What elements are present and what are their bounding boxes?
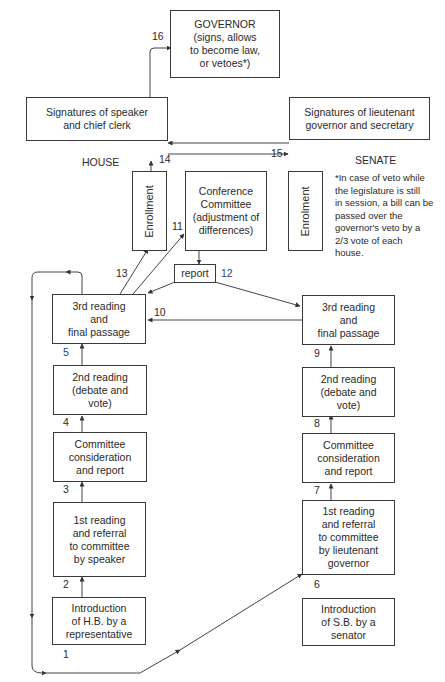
arrow-loop-top bbox=[66, 272, 82, 294]
arrow-16 bbox=[150, 48, 171, 97]
step-1: 1 bbox=[63, 648, 69, 660]
step-5: 5 bbox=[63, 346, 69, 358]
house-label: HOUSE bbox=[82, 156, 119, 168]
governor-box: GOVERNOR (signs, allows to become law, o… bbox=[170, 10, 280, 78]
step-15: 15 bbox=[271, 147, 283, 159]
senate-introduction-box: Introduction of S.B. by a senator bbox=[302, 598, 395, 646]
house-committee-box: Committee consideration and report bbox=[53, 432, 147, 482]
house-signatures-box: Signatures of speaker and chief clerk bbox=[26, 97, 168, 141]
step-12: 12 bbox=[221, 267, 233, 279]
arrow-report-house bbox=[148, 282, 175, 293]
step-9: 9 bbox=[314, 347, 320, 359]
senate-first-reading-box: 1st reading and referral to committee by… bbox=[302, 500, 395, 575]
report-box: report bbox=[174, 264, 216, 283]
house-enrollment-box: Enrollment bbox=[132, 171, 167, 251]
house-third-reading-box: 3rd reading and final passage bbox=[52, 294, 146, 344]
step-2: 2 bbox=[63, 578, 69, 590]
house-second-reading-box: 2nd reading (debate and vote) bbox=[53, 365, 147, 415]
step-14: 14 bbox=[159, 153, 171, 165]
arrow-report-senate bbox=[215, 282, 300, 306]
senate-third-reading-box: 3rd reading and final passage bbox=[302, 295, 395, 345]
senate-label: SENATE bbox=[355, 154, 396, 166]
step-4: 4 bbox=[63, 416, 69, 428]
senate-committee-box: Committee consideration and report bbox=[302, 433, 395, 483]
senate-enrollment-box: Enrolment bbox=[288, 171, 323, 251]
arrow-loop-bottom bbox=[32, 618, 46, 673]
senate-enrollment-label: Enrolment bbox=[299, 186, 312, 236]
senate-signatures-box: Signatures of lieutenant governor and se… bbox=[289, 97, 430, 140]
conference-committee-box: Conference Committee (adjustment of diff… bbox=[185, 171, 267, 251]
arrow-6 bbox=[180, 574, 302, 650]
step-11: 11 bbox=[172, 220, 183, 232]
veto-footnote: *In case of veto while the legislature i… bbox=[335, 172, 433, 260]
step-7: 7 bbox=[314, 484, 320, 496]
house-introduction-box: Introduction of H.B. by a representative bbox=[52, 597, 146, 645]
step-10: 10 bbox=[154, 306, 166, 318]
step-13: 13 bbox=[116, 267, 128, 279]
house-first-reading-box: 1st reading and referral to committee by… bbox=[53, 502, 146, 577]
step-3: 3 bbox=[63, 483, 69, 495]
step-8: 8 bbox=[314, 417, 320, 429]
step-6: 6 bbox=[314, 578, 320, 590]
house-enrollment-label: Enrollment bbox=[143, 185, 156, 238]
step-16: 16 bbox=[152, 30, 164, 42]
senate-second-reading-box: 2nd reading (debate and vote) bbox=[302, 367, 395, 417]
